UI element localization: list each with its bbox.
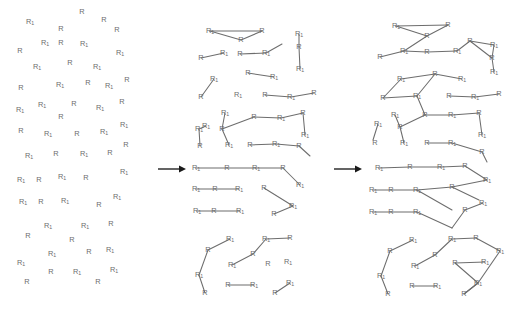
monomer-label-r: R (197, 141, 202, 150)
monomer-label-r: R (380, 93, 385, 102)
bond-line (222, 117, 254, 129)
monomer-label-r1: R1 (17, 175, 25, 185)
monomer-label-r1: R1 (496, 246, 504, 256)
monomer-label-r1: R1 (73, 267, 81, 277)
bond-line (400, 115, 425, 127)
monomer-label-r1: R1 (93, 62, 101, 72)
monomer-label-r1: R1 (284, 257, 292, 267)
monomer-label-r1: R1 (483, 175, 491, 185)
monomer-label-r1: R1 (400, 46, 408, 56)
monomer-label-r1: R1 (369, 185, 377, 195)
monomer-label-r1: R1 (375, 163, 383, 173)
monomer-label-r1: R1 (38, 100, 46, 110)
monomer-label-r1: R1 (105, 81, 113, 91)
monomer-label-r: R (280, 163, 285, 172)
monomer-label-r1: R1 (270, 72, 278, 82)
monomer-label-r1: R1 (478, 130, 486, 140)
bond-line (401, 74, 435, 79)
monomer-label-r: R (377, 52, 382, 61)
monomer-label-r1: R1 (490, 67, 498, 77)
monomer-label-r1: R1 (33, 62, 41, 72)
monomer-label-r1: R1 (228, 260, 236, 270)
monomer-label-r: R (272, 288, 277, 297)
monomer-label-r1: R1 (202, 121, 210, 131)
monomer-label-r: R (85, 78, 90, 87)
monomer-label-r: R (18, 126, 23, 135)
monomer-label-r: R (296, 42, 301, 51)
monomer-label-r: R (287, 233, 292, 242)
monomer-label-r1: R1 (56, 80, 64, 90)
monomer-label-r: R (445, 20, 450, 29)
monomer-label-r1: R1 (195, 270, 203, 280)
monomer-label-r: R (25, 231, 30, 240)
monomer-label-r1: R1 (192, 184, 200, 194)
monomer-label-r: R (86, 247, 91, 256)
monomer-label-r: R (424, 47, 429, 56)
monomer-label-r: R (114, 25, 119, 34)
monomer-label-r1: R1 (25, 151, 33, 161)
monomer-label-r: R (496, 89, 501, 98)
monomer-label-r1: R1 (296, 64, 304, 74)
monomer-label-r1: R1 (26, 17, 34, 27)
monomer-label-r1: R1 (80, 39, 88, 49)
monomer-label-r1: R1 (277, 113, 285, 123)
monomer-label-r: R (202, 288, 207, 297)
monomer-label-r1: R1 (409, 235, 417, 245)
monomer-label-r1: R1 (226, 234, 234, 244)
monomer-label-r1: R1 (106, 245, 114, 255)
bond-line (452, 143, 482, 152)
monomer-label-r1: R1 (120, 167, 128, 177)
monomer-label-r1: R1 (236, 206, 244, 216)
monomer-label-r: R (388, 207, 393, 216)
monomer-label-r1: R1 (81, 221, 89, 231)
monomer-label-r: R (296, 141, 301, 150)
monomer-label-r1: R1 (110, 265, 118, 275)
monomer-label-r1: R1 (272, 139, 280, 149)
monomer-label-r1: R1 (120, 120, 128, 130)
monomer-label-r: R (96, 200, 101, 209)
monomer-label-r1: R1 (262, 234, 270, 244)
monomer-label-r: R (300, 108, 305, 117)
monomer-label-r: R (372, 138, 377, 147)
bond-line (417, 190, 452, 210)
monomer-label-r: R (101, 15, 106, 24)
monomer-label-r: R (449, 182, 454, 191)
monomer-label-r: R (58, 38, 63, 47)
monomer-label-r1: R1 (296, 180, 304, 190)
nodes-layer: R1RRRRR1RR1RR1R1RR1R1RR1RRR1RR1RR1RR1RR1… (16, 7, 504, 298)
monomer-label-r: R (212, 184, 217, 193)
monomer-label-r: R (407, 162, 412, 171)
monomer-label-r1: R1 (377, 271, 385, 281)
monomer-label-r1: R1 (116, 48, 124, 58)
monomer-label-r: R (422, 110, 427, 119)
monomer-label-r: R (119, 97, 124, 106)
monomer-label-r: R (479, 147, 484, 156)
monomer-label-r: R (385, 289, 390, 298)
monomer-label-r1: R1 (17, 258, 25, 268)
monomer-label-r: R (83, 173, 88, 182)
figure-canvas: R1RRRRR1RR1RR1R1RR1R1RR1RRR1RR1RR1RR1RR1… (0, 0, 514, 314)
monomer-label-r: R (17, 46, 22, 55)
monomer-label-r1: R1 (44, 129, 52, 139)
monomer-label-r: R (247, 140, 252, 149)
bond-line (379, 167, 410, 168)
monomer-label-r: R (58, 24, 63, 33)
monomer-label-r: R (224, 163, 229, 172)
monomer-label-r1: R1 (471, 92, 479, 102)
monomer-label-r: R (198, 53, 203, 62)
bond-line (417, 212, 452, 228)
monomer-label-r: R (311, 88, 316, 97)
monomer-label-r: R (409, 281, 414, 290)
monomer-label-r: R (58, 112, 63, 121)
monomer-label-r: R (71, 99, 76, 108)
monomer-label-r1: R1 (44, 221, 52, 231)
monomer-label-r: R (18, 83, 23, 92)
monomer-label-r: R (473, 233, 478, 242)
monomer-label-r: R (79, 7, 84, 16)
monomer-label-r1: R1 (113, 192, 121, 202)
arrow-stage-2-to-3-icon (334, 165, 362, 172)
monomer-label-r1: R1 (433, 281, 441, 291)
monomer-label-r: R (108, 219, 113, 228)
arrow-stage-1-to-2-icon (158, 165, 186, 172)
monomer-label-r1: R1 (413, 207, 421, 217)
